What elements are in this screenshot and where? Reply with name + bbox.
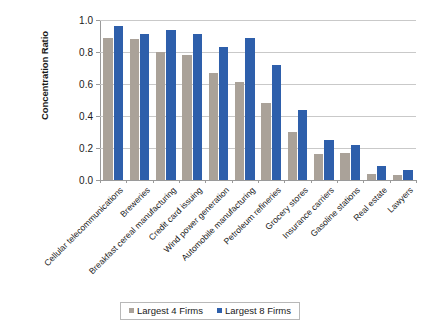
x-tick-mark bbox=[153, 180, 154, 183]
x-axis-label: Cellular telecommunications bbox=[42, 185, 125, 268]
bar-largest-4-firms bbox=[182, 55, 191, 180]
bar-largest-4-firms bbox=[340, 153, 349, 180]
x-axis-label: Grocery stores bbox=[263, 185, 310, 232]
y-tick-label-0.2: 0.2 bbox=[79, 143, 93, 154]
bar-largest-8-firms bbox=[403, 170, 412, 180]
bar-largest-8-firms bbox=[351, 145, 360, 180]
x-axis-label: Breweries bbox=[117, 185, 151, 219]
bar-group bbox=[235, 20, 254, 180]
bar-group bbox=[367, 20, 386, 180]
x-axis-label: Breakfast cereal manufacturing bbox=[87, 185, 178, 276]
bar-largest-4-firms bbox=[209, 73, 218, 180]
x-axis-label: Wind power generation bbox=[161, 185, 231, 255]
y-tick-label-0.4: 0.4 bbox=[79, 111, 93, 122]
x-tick-mark bbox=[232, 180, 233, 183]
bar-largest-8-firms bbox=[298, 110, 307, 180]
concentration-ratio-bar-chart: Concentration Ratio 0.00.20.40.60.81.0 C… bbox=[0, 0, 435, 335]
chart-legend: Largest 4 Firms Largest 8 Firms bbox=[120, 302, 300, 320]
bar-largest-8-firms bbox=[377, 166, 386, 180]
x-axis-label: Real estate bbox=[351, 185, 389, 223]
bar-largest-4-firms bbox=[261, 103, 270, 180]
legend-label-series-1: Largest 4 Firms bbox=[137, 305, 203, 316]
y-tick-label-0.0: 0.0 bbox=[79, 175, 93, 186]
plot-area: 0.00.20.40.60.81.0 bbox=[100, 20, 416, 180]
bar-group bbox=[156, 20, 175, 180]
x-axis-label: Insurance carriers bbox=[280, 185, 336, 241]
legend-item-series-2: Largest 8 Firms bbox=[217, 305, 291, 316]
x-tick-mark bbox=[311, 180, 312, 183]
y-tick-label-0.8: 0.8 bbox=[79, 47, 93, 58]
x-tick-mark bbox=[258, 180, 259, 183]
bar-group bbox=[340, 20, 359, 180]
bar-group bbox=[261, 20, 280, 180]
legend-label-series-2: Largest 8 Firms bbox=[225, 305, 291, 316]
bar-largest-8-firms bbox=[193, 34, 202, 180]
y-tick-label-1.0: 1.0 bbox=[79, 15, 93, 26]
bar-group bbox=[103, 20, 122, 180]
y-axis-title: Concentration Ratio bbox=[39, 16, 50, 136]
legend-swatch-icon-series-1 bbox=[129, 308, 134, 313]
bar-group bbox=[314, 20, 333, 180]
bar-group bbox=[130, 20, 149, 180]
y-axis-line bbox=[100, 20, 101, 180]
x-axis-label: Gasoline stations bbox=[309, 185, 363, 239]
bar-largest-8-firms bbox=[245, 38, 254, 180]
x-tick-mark bbox=[337, 180, 338, 183]
bar-largest-4-firms bbox=[235, 82, 244, 180]
x-axis-label: Automobile manufacturing bbox=[179, 185, 257, 263]
x-tick-mark bbox=[284, 180, 285, 183]
bar-largest-8-firms bbox=[272, 65, 281, 180]
y-tick-mark-0.8 bbox=[96, 52, 100, 53]
bar-largest-4-firms bbox=[130, 39, 139, 180]
bar-largest-4-firms bbox=[288, 132, 297, 180]
y-tick-mark-0.4 bbox=[96, 116, 100, 117]
bar-group bbox=[182, 20, 201, 180]
bar-largest-8-firms bbox=[140, 34, 149, 180]
bar-largest-4-firms bbox=[103, 38, 112, 180]
bar-largest-4-firms bbox=[367, 174, 376, 180]
bar-largest-4-firms bbox=[156, 52, 165, 180]
x-tick-mark bbox=[390, 180, 391, 183]
bar-group bbox=[288, 20, 307, 180]
legend-swatch-icon-series-2 bbox=[217, 308, 222, 313]
legend-item-series-1: Largest 4 Firms bbox=[129, 305, 203, 316]
bar-largest-8-firms bbox=[219, 47, 228, 180]
x-tick-mark bbox=[363, 180, 364, 183]
y-tick-mark-0.2 bbox=[96, 148, 100, 149]
y-tick-mark-0.6 bbox=[96, 84, 100, 85]
bar-group bbox=[209, 20, 228, 180]
x-tick-mark bbox=[179, 180, 180, 183]
bar-largest-4-firms bbox=[393, 175, 402, 180]
x-axis-label: Lawyers bbox=[385, 185, 415, 215]
bar-largest-8-firms bbox=[324, 140, 333, 180]
x-axis-label: Credit card issuing bbox=[147, 185, 204, 242]
bar-largest-4-firms bbox=[314, 154, 323, 180]
bar-largest-8-firms bbox=[166, 30, 175, 180]
y-tick-label-0.6: 0.6 bbox=[79, 79, 93, 90]
x-axis-label: Petroleum refineries bbox=[222, 185, 283, 246]
x-tick-mark bbox=[416, 180, 417, 183]
bar-group bbox=[393, 20, 412, 180]
y-tick-mark-1.0 bbox=[96, 20, 100, 21]
bar-largest-8-firms bbox=[114, 26, 123, 180]
x-tick-mark bbox=[205, 180, 206, 183]
x-tick-mark bbox=[100, 180, 101, 183]
x-tick-mark bbox=[126, 180, 127, 183]
